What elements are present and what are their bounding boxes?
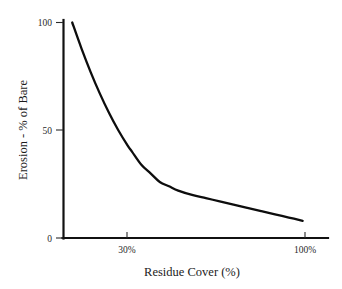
y-tick-label-100: 100 [38, 18, 53, 28]
data-curve-erosion [72, 23, 302, 221]
y-axis-title: Erosion - % of Bare [16, 80, 30, 180]
y-tick-label-50: 50 [43, 126, 53, 136]
x-axis-title: Residue Cover (%) [144, 265, 240, 279]
chart-plot-area: 100 50 0 30% 100% Residue Cover (%) Eros… [0, 0, 342, 289]
x-tick-label-30: 30% [118, 245, 136, 255]
x-tick-label-100: 100% [294, 245, 316, 255]
erosion-residue-chart: 100 50 0 30% 100% Residue Cover (%) Eros… [0, 0, 342, 289]
y-tick-label-0: 0 [47, 234, 52, 244]
